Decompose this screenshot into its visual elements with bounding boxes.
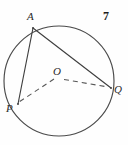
segment-AQ — [33, 28, 111, 88]
vertex-A-dot — [32, 27, 34, 29]
geometry-figure: A P Q O 7 — [0, 0, 128, 145]
vertex-P-dot — [17, 103, 19, 105]
vertex-Q-dot — [110, 87, 112, 89]
point-label-p: P — [6, 103, 13, 114]
point-label-a: A — [27, 11, 34, 22]
segment-OP-dashed — [19, 79, 54, 102]
center-label-o: O — [53, 66, 61, 77]
figure-number: 7 — [103, 10, 109, 22]
segment-AP — [18, 28, 33, 104]
point-label-q: Q — [114, 84, 122, 95]
circle-outline — [4, 26, 114, 136]
